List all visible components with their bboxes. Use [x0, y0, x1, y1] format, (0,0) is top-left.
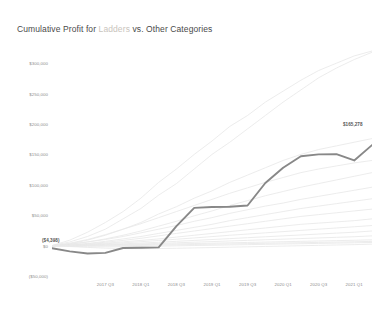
page-title: Cumulative Profit for Ladders vs. Other …	[17, 24, 212, 34]
x-axis: 2017 Q32018 Q12018 Q32019 Q12019 Q32020 …	[52, 282, 372, 296]
x-axis-tick-label: 2019 Q1	[203, 282, 220, 287]
title-highlight-category: Ladders	[99, 24, 130, 34]
y-axis-tick-label: $0	[43, 243, 48, 248]
y-axis-tick-label: $200,000	[29, 122, 48, 127]
y-axis-tick-label: $50,000	[32, 213, 48, 218]
y-axis-tick-label: $100,000	[29, 182, 48, 187]
line-chart-canvas	[52, 48, 372, 276]
x-axis-tick-label: 2020 Q3	[310, 282, 327, 287]
start-value-label: ($4,398)	[42, 238, 60, 243]
x-axis-tick-label: 2017 Q3	[97, 282, 114, 287]
title-suffix: vs. Other Categories	[130, 24, 212, 34]
y-axis-tick-label: ($50,000)	[29, 274, 48, 279]
y-axis-tick-label: $250,000	[29, 91, 48, 96]
plot-area[interactable]	[52, 48, 372, 276]
y-axis-tick-label: $150,000	[29, 152, 48, 157]
other-category-line	[52, 52, 372, 245]
x-axis-tick-label: 2020 Q1	[275, 282, 292, 287]
x-axis-tick-label: 2021 Q1	[346, 282, 363, 287]
x-axis-tick-label: 2019 Q3	[239, 282, 256, 287]
other-category-line	[52, 160, 372, 245]
x-axis-tick-label: 2018 Q3	[168, 282, 185, 287]
end-value-label: $165,278	[343, 122, 363, 127]
x-axis-tick-label: 2018 Q1	[132, 282, 149, 287]
y-axis-tick-label: $300,000	[29, 61, 48, 66]
title-prefix: Cumulative Profit for	[17, 24, 99, 34]
other-category-line	[52, 173, 372, 246]
